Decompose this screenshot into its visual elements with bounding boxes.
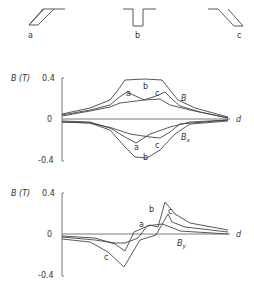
top-ytick-min: -0.4 — [38, 156, 54, 165]
shape-a-label: a — [28, 31, 33, 40]
top-ytick-max: 0.4 — [42, 74, 55, 83]
top-label-b2: b — [143, 153, 148, 162]
bottom-y-axis — [62, 193, 64, 276]
bottom-label-c2: c — [168, 207, 172, 216]
bottom-ylabel: B (T) — [11, 189, 30, 198]
bottom-ytick-max: 0.4 — [42, 189, 55, 198]
bottom-d-label: d — [236, 230, 242, 239]
curve-B-c — [62, 92, 228, 118]
bottom-ytick-zero: 0 — [47, 230, 52, 239]
bottom-label-a: a — [139, 220, 144, 229]
top-label-a1: a — [126, 89, 131, 98]
top-label-c1: c — [155, 89, 159, 98]
bottom-ytick-min: -0.4 — [38, 271, 54, 280]
top-label-a2: a — [134, 143, 139, 152]
top-d-label: d — [236, 115, 242, 124]
shape-c: c — [208, 9, 243, 40]
figure: a b c B (T) 0.4 0 -0.4 d b a c B a b c B… — [0, 0, 254, 288]
top-ylabel: B (T) — [11, 74, 30, 83]
curve-By-b — [62, 202, 228, 251]
top-label-c2: c — [155, 141, 159, 150]
top-label-b1: b — [143, 82, 148, 91]
shape-b-label: b — [135, 31, 140, 40]
bottom-label-By: By — [177, 239, 187, 250]
bottom-label-b: b — [149, 205, 154, 214]
bottom-chart: B (T) 0.4 0 -0.4 d b c a c By — [11, 189, 242, 280]
shape-b: b — [123, 9, 156, 40]
bottom-label-c: c — [104, 253, 108, 262]
top-y-axis — [62, 78, 64, 161]
top-ytick-zero: 0 — [47, 115, 52, 124]
curve-By-c — [62, 214, 228, 267]
top-label-B: B — [181, 94, 187, 103]
top-chart: B (T) 0.4 0 -0.4 d b a c B a b c Bx — [11, 74, 242, 165]
shape-c-label: c — [237, 31, 241, 40]
shape-a: a — [28, 9, 65, 40]
top-label-Bx: Bx — [181, 133, 191, 143]
curve-Bx-a — [62, 120, 228, 143]
curve-B-a — [62, 92, 228, 118]
